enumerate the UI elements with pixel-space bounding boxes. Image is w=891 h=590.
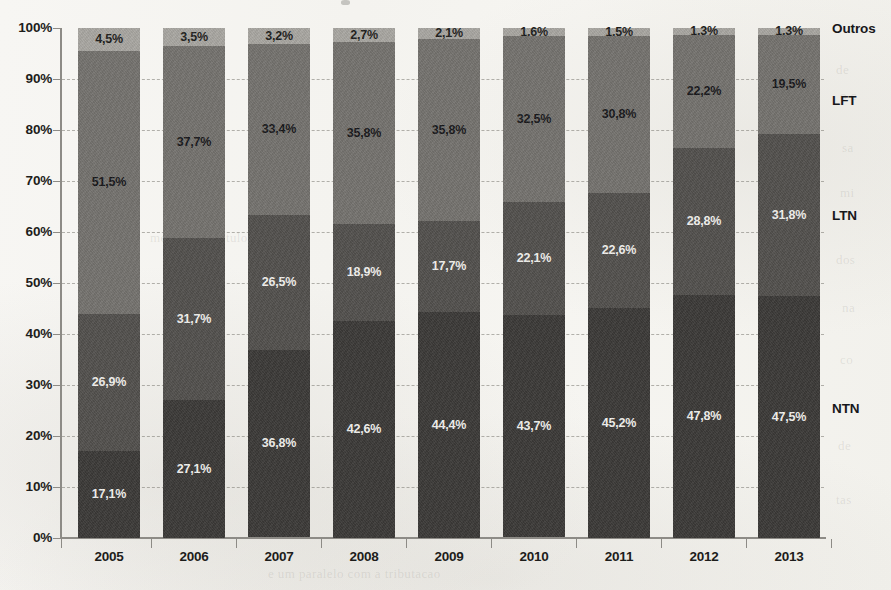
y-axis-tick-label: 30% xyxy=(0,377,52,392)
bar-segment-value-label: 30,8% xyxy=(602,108,636,121)
bar-segment-ntn[interactable]: 36,8% xyxy=(248,350,310,538)
bar-segment-value-label: 4,5% xyxy=(95,33,123,46)
bar-segment-ntn[interactable]: 47,8% xyxy=(673,295,735,539)
bar-segment-ltn[interactable]: 26,5% xyxy=(248,215,310,350)
bar-segment-ltn[interactable]: 18,9% xyxy=(333,224,395,320)
stacked-bar[interactable]: 1,5%30,8%22,6%45,2% xyxy=(588,28,650,538)
bar-segment-value-label: 2,7% xyxy=(350,29,378,42)
bar-segment-lft[interactable]: 32,5% xyxy=(503,36,565,202)
x-axis-tick-mark xyxy=(236,539,237,548)
y-axis-tick-label: 100% xyxy=(0,20,52,35)
y-axis-tick-mark xyxy=(53,79,62,80)
x-axis-tick-mark xyxy=(491,539,492,548)
bar-segment-outros[interactable]: 1,3% xyxy=(673,28,735,35)
bar-segment-value-label: 17,7% xyxy=(432,260,466,273)
bar-segment-ntn[interactable]: 45,2% xyxy=(588,308,650,539)
bar-segment-value-label: 18,9% xyxy=(347,266,381,279)
bar-segment-lft[interactable]: 35,8% xyxy=(333,42,395,225)
x-axis-tick-mark xyxy=(321,539,322,548)
stacked-bar[interactable]: 1,6%32,5%22,1%43,7% xyxy=(503,28,565,538)
y-axis-tick-mark xyxy=(53,28,62,29)
y-axis-tick-label: 50% xyxy=(0,275,52,290)
y-axis-tick-label: 60% xyxy=(0,224,52,239)
bar-segment-lft[interactable]: 35,8% xyxy=(418,39,480,222)
stacked-bar[interactable]: 3,5%37,7%31,7%27,1% xyxy=(163,28,225,538)
stacked-bar[interactable]: 1,3%22,2%28,8%47,8% xyxy=(673,28,735,538)
y-axis-tick-mark xyxy=(53,487,62,488)
bar-segment-value-label: 47,5% xyxy=(772,411,806,424)
bar-segment-lft[interactable]: 33,4% xyxy=(248,44,310,214)
y-axis-tick-label: 0% xyxy=(0,530,52,545)
bar-segment-value-label: 35,8% xyxy=(347,127,381,140)
bar-segment-outros[interactable]: 2,7% xyxy=(333,28,395,42)
bleed-text: de xyxy=(836,62,849,78)
stacked-bar[interactable]: 2,7%35,8%18,9%42,6% xyxy=(333,28,395,538)
bar-segment-value-label: 42,6% xyxy=(347,423,381,436)
x-axis-tick-mark xyxy=(576,539,577,548)
bar-segment-value-label: 17,1% xyxy=(92,488,126,501)
bar-segment-value-label: 31,8% xyxy=(772,209,806,222)
bar-segment-ltn[interactable]: 22,6% xyxy=(588,193,650,308)
x-axis-label-2011: 2011 xyxy=(579,549,659,564)
x-axis-tick-mark xyxy=(61,539,62,548)
bar-segment-ltn[interactable]: 31,7% xyxy=(163,238,225,400)
bar-segment-lft[interactable]: 37,7% xyxy=(163,46,225,238)
bar-segment-ntn[interactable]: 17,1% xyxy=(78,451,140,538)
bleed-text: tas xyxy=(836,492,852,508)
stacked-bar[interactable]: 3,2%33,4%26,5%36,8% xyxy=(248,28,310,538)
bar-segment-ntn[interactable]: 43,7% xyxy=(503,315,565,538)
x-axis-label-2008: 2008 xyxy=(324,549,404,564)
y-axis-tick-mark xyxy=(53,181,62,182)
bar-segment-value-label: 44,4% xyxy=(432,419,466,432)
bar-segment-value-label: 28,8% xyxy=(687,215,721,228)
x-axis-tick-mark xyxy=(151,539,152,548)
bar-segment-outros[interactable]: 1,3% xyxy=(758,28,820,35)
bar-segment-value-label: 43,7% xyxy=(517,420,551,433)
bar-segment-value-label: 32,5% xyxy=(517,113,551,126)
x-axis-label-2013: 2013 xyxy=(749,549,829,564)
bar-segment-outros[interactable]: 3,5% xyxy=(163,28,225,46)
bar-segment-value-label: 45,2% xyxy=(602,417,636,430)
bar-segment-value-label: 37,7% xyxy=(177,136,211,149)
y-axis-tick-mark xyxy=(53,436,62,437)
plot-area: 4,5%51,5%26,9%17,1%3,5%37,7%31,7%27,1%3,… xyxy=(78,28,824,538)
bar-segment-outros[interactable]: 4,5% xyxy=(78,28,140,51)
x-axis-label-2012: 2012 xyxy=(664,549,744,564)
y-axis-tick-label: 90% xyxy=(0,71,52,86)
y-axis-tick-mark xyxy=(53,385,62,386)
bar-segment-ltn[interactable]: 17,7% xyxy=(418,221,480,311)
bar-segment-ntn[interactable]: 27,1% xyxy=(163,400,225,538)
bar-segment-value-label: 26,5% xyxy=(262,276,296,289)
x-axis-label-2009: 2009 xyxy=(409,549,489,564)
stacked-bar[interactable]: 4,5%51,5%26,9%17,1% xyxy=(78,28,140,538)
bar-segment-value-label: 35,8% xyxy=(432,124,466,137)
bar-segment-outros[interactable]: 3,2% xyxy=(248,28,310,44)
bar-segment-value-label: 33,4% xyxy=(262,123,296,136)
bar-segment-outros[interactable]: 1,6% xyxy=(503,28,565,36)
bar-segment-lft[interactable]: 51,5% xyxy=(78,51,140,314)
bar-segment-outros[interactable]: 2,1% xyxy=(418,28,480,39)
bar-segment-lft[interactable]: 22,2% xyxy=(673,35,735,148)
bar-segment-outros[interactable]: 1,5% xyxy=(588,28,650,36)
bar-segment-ntn[interactable]: 47,5% xyxy=(758,296,820,538)
x-axis-label-2006: 2006 xyxy=(154,549,234,564)
bleed-text: sa xyxy=(842,140,854,156)
bleed-text: mi xyxy=(840,185,855,201)
series-label-outros: Outros xyxy=(832,21,876,36)
bar-segment-ntn[interactable]: 42,6% xyxy=(333,321,395,538)
y-axis-tick-label: 80% xyxy=(0,122,52,137)
bar-segment-ltn[interactable]: 22,1% xyxy=(503,202,565,315)
y-axis-tick-mark xyxy=(53,334,62,335)
bar-segment-ltn[interactable]: 26,9% xyxy=(78,314,140,451)
bar-segment-ntn[interactable]: 44,4% xyxy=(418,312,480,538)
bar-segment-lft[interactable]: 30,8% xyxy=(588,36,650,193)
bar-segment-ltn[interactable]: 28,8% xyxy=(673,148,735,295)
bar-segment-lft[interactable]: 19,5% xyxy=(758,35,820,134)
bar-segment-ltn[interactable]: 31,8% xyxy=(758,134,820,296)
stacked-bar[interactable]: 1,3%19,5%31,8%47,5% xyxy=(758,28,820,538)
x-axis-tick-mark xyxy=(831,539,832,548)
stacked-bar[interactable]: 2,1%35,8%17,7%44,4% xyxy=(418,28,480,538)
x-axis-label-2005: 2005 xyxy=(69,549,149,564)
bleed-text: dos xyxy=(836,252,855,268)
y-axis-tick-label: 10% xyxy=(0,479,52,494)
